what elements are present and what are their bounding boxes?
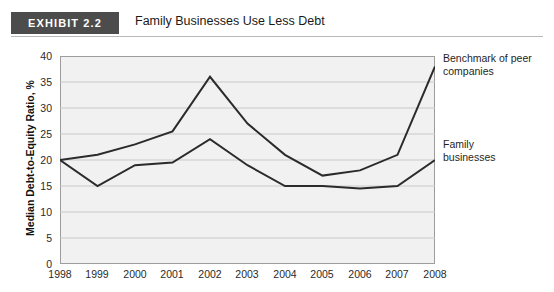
x-tick-label-1998: 1998 [39, 268, 81, 280]
exhibit-figure: EXHIBIT 2.2 Family Businesses Use Less D… [0, 0, 554, 292]
x-tick-label-1999: 1999 [76, 268, 118, 280]
x-tick-label-2001: 2001 [151, 268, 193, 280]
y-tick-label-20: 20 [26, 154, 52, 166]
annotation-benchmark-line2: companies [443, 65, 551, 78]
header-divider [11, 36, 543, 37]
y-tick-label-40: 40 [26, 50, 52, 62]
y-tick-label-25: 25 [26, 128, 52, 140]
x-tick-label-2008: 2008 [414, 268, 456, 280]
gridlines [60, 82, 435, 238]
series-line-family [60, 139, 435, 188]
annotation-benchmark: Benchmark of peer companies [443, 52, 551, 78]
annotation-family-line1: Family [443, 138, 551, 151]
x-tick-label-2006: 2006 [339, 268, 381, 280]
y-tick-label-15: 15 [26, 180, 52, 192]
x-tick-label-2005: 2005 [301, 268, 343, 280]
y-tick-label-35: 35 [26, 76, 52, 88]
x-tick-label-2002: 2002 [189, 268, 231, 280]
x-tick-label-2000: 2000 [114, 268, 156, 280]
annotation-family: Family businesses [443, 138, 551, 164]
series-line-benchmark [60, 66, 435, 175]
exhibit-number-badge: EXHIBIT 2.2 [11, 12, 119, 34]
annotation-benchmark-line1: Benchmark of peer [443, 52, 551, 65]
x-tick-label-2003: 2003 [226, 268, 268, 280]
y-tick-label-10: 10 [26, 206, 52, 218]
exhibit-header: EXHIBIT 2.2 Family Businesses Use Less D… [11, 12, 543, 36]
chart-container: Median Debt-to-Equity Ratio, % 40 35 30 … [0, 40, 554, 292]
y-tick-label-30: 30 [26, 102, 52, 114]
x-tick-label-2007: 2007 [376, 268, 418, 280]
y-tick-label-5: 5 [26, 232, 52, 244]
plot-svg [60, 56, 435, 264]
annotation-family-line2: businesses [443, 151, 551, 164]
exhibit-title: Family Businesses Use Less Debt [135, 14, 325, 28]
x-tick-label-2004: 2004 [264, 268, 306, 280]
